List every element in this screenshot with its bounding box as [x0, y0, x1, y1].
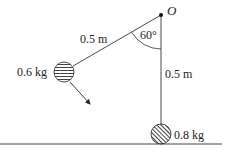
angle-label: 60° [140, 28, 157, 42]
motion-arrow-icon [70, 82, 90, 104]
vertical-length-label: 0.5 m [165, 67, 193, 81]
swinging-ball [54, 62, 74, 82]
resting-mass-label: 0.8 kg [174, 128, 204, 142]
pendulum-diagram: O 60° 0.5 m 0.5 m 0.6 kg 0.8 kg [0, 0, 226, 153]
pivot-label: O [167, 3, 177, 18]
inclined-length-label: 0.5 m [80, 32, 108, 46]
resting-ball [151, 124, 171, 144]
pivot-point [159, 13, 163, 17]
swinging-mass-label: 0.6 kg [17, 65, 47, 79]
